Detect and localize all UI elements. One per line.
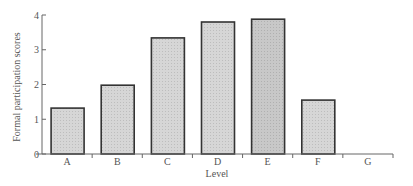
bars-group [51, 19, 335, 154]
y-axis-title: Formal participation scores [11, 32, 22, 142]
bar-f [302, 100, 335, 154]
x-axis-title: Level [206, 168, 229, 179]
bar-c [151, 38, 184, 154]
bar-d [202, 22, 235, 154]
y-tick-label: 1 [34, 114, 39, 125]
x-tick-label: D [214, 156, 221, 167]
bar-b [101, 85, 134, 154]
y-tick-label: 3 [34, 44, 39, 55]
y-tick-label: 4 [34, 10, 39, 21]
y-tick-label: 2 [34, 79, 39, 90]
bar-a [51, 108, 84, 154]
bar-chart: 01234ABCDEFG Formal participation scores… [0, 0, 413, 186]
x-tick-label: C [164, 156, 171, 167]
x-tick-label: F [315, 156, 321, 167]
x-tick-label: G [364, 156, 371, 167]
bar-e [252, 19, 285, 154]
x-tick-label: B [114, 156, 121, 167]
x-tick-label: A [63, 156, 71, 167]
x-tick-label: E [265, 156, 271, 167]
